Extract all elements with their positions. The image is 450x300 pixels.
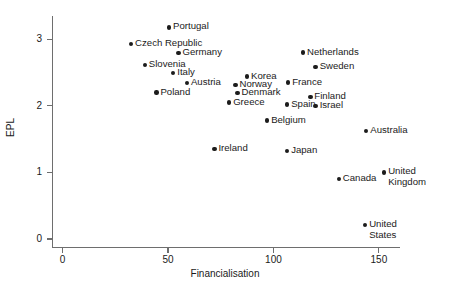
data-point-label: Australia bbox=[370, 125, 407, 136]
data-point-marker bbox=[364, 129, 368, 133]
data-point-marker bbox=[185, 81, 189, 85]
data-point-label: Netherlands bbox=[307, 47, 359, 58]
data-point-marker bbox=[285, 149, 289, 153]
data-point-label: Austria bbox=[191, 77, 221, 88]
y-tick-mark bbox=[47, 172, 52, 173]
data-point-marker bbox=[313, 65, 317, 69]
y-tick-mark bbox=[47, 238, 52, 239]
y-tick-mark bbox=[47, 39, 52, 40]
data-point-label: Portugal bbox=[173, 21, 209, 32]
data-point-label: Spain bbox=[291, 99, 316, 110]
data-point-marker bbox=[233, 83, 237, 87]
y-tick-mark bbox=[47, 105, 52, 106]
data-point-label: France bbox=[292, 77, 322, 88]
x-axis-line bbox=[52, 247, 400, 248]
data-point-label: Germany bbox=[183, 47, 222, 58]
data-point-marker bbox=[171, 71, 175, 75]
y-tick-label: 2 bbox=[22, 100, 42, 111]
data-point-marker bbox=[382, 170, 386, 174]
y-tick-label: 1 bbox=[22, 166, 42, 177]
data-point-marker bbox=[176, 51, 180, 55]
x-tick-label: 150 bbox=[364, 254, 394, 265]
y-axis-line bbox=[52, 16, 53, 248]
x-tick-label: 100 bbox=[258, 254, 288, 265]
x-tick-label: 50 bbox=[153, 254, 183, 265]
data-point-marker bbox=[285, 102, 289, 106]
x-tick-label: 0 bbox=[48, 254, 78, 265]
data-point-marker bbox=[363, 223, 367, 227]
y-axis-title: EPL bbox=[5, 103, 16, 153]
data-point-marker bbox=[337, 177, 341, 181]
x-tick-mark bbox=[167, 248, 168, 253]
data-point-marker bbox=[154, 90, 158, 94]
x-tick-mark bbox=[378, 248, 379, 253]
data-point-marker bbox=[129, 42, 133, 46]
data-point-label: Poland bbox=[160, 87, 190, 98]
data-point-marker bbox=[265, 118, 269, 122]
y-tick-label: 0 bbox=[22, 233, 42, 244]
data-point-marker bbox=[301, 50, 305, 54]
data-point-label: Canada bbox=[343, 173, 377, 184]
x-tick-mark bbox=[62, 248, 63, 253]
data-point-marker bbox=[286, 80, 290, 84]
data-point-label: Ireland bbox=[218, 143, 247, 154]
data-point-label: Israel bbox=[320, 100, 343, 111]
data-point-marker bbox=[313, 104, 317, 108]
data-point-marker bbox=[235, 91, 239, 95]
data-point-label: Greece bbox=[233, 97, 264, 108]
data-point-marker bbox=[212, 147, 216, 151]
x-tick-mark bbox=[273, 248, 274, 253]
x-axis-title: Financialisation bbox=[145, 268, 305, 279]
data-point-label: United States bbox=[369, 219, 397, 240]
scatter-plot-figure: EPL Financialisation 0123 050100150 Port… bbox=[0, 0, 450, 300]
data-point-label: Belgium bbox=[271, 115, 306, 126]
plot-area: EPL Financialisation 0123 050100150 Port… bbox=[0, 0, 450, 300]
data-point-label: Sweden bbox=[320, 61, 355, 72]
data-point-marker bbox=[227, 100, 231, 104]
data-point-label: United Kingdom bbox=[388, 166, 426, 187]
y-tick-label: 3 bbox=[22, 33, 42, 44]
data-point-label: Japan bbox=[291, 145, 317, 156]
data-point-marker bbox=[143, 63, 147, 67]
data-point-marker bbox=[167, 25, 171, 29]
